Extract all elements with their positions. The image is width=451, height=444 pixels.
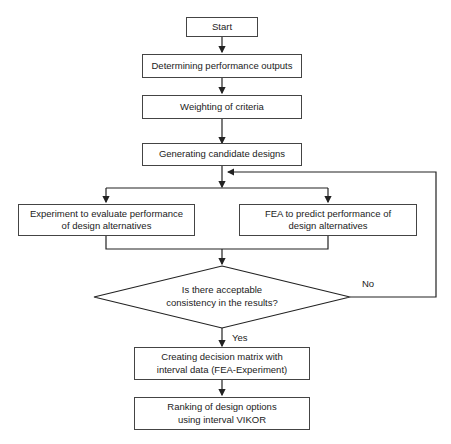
fea-node: FEA to predict performance of design alt… <box>239 204 417 236</box>
ranking-node: Ranking of design options using interval… <box>134 397 310 430</box>
decision-node: Is there acceptable consistency in the r… <box>160 284 284 310</box>
weighting-node: Weighting of criteria <box>142 95 302 119</box>
matrix-node: Creating decision matrix with interval d… <box>134 347 310 380</box>
yes-label: Yes <box>232 332 248 343</box>
start-node: Start <box>186 17 258 37</box>
determine-node: Determining performance outputs <box>142 54 302 78</box>
experiment-node: Experiment to evaluate performance of de… <box>18 204 195 236</box>
generate-node: Generating candidate designs <box>142 143 302 166</box>
no-label: No <box>362 278 374 289</box>
